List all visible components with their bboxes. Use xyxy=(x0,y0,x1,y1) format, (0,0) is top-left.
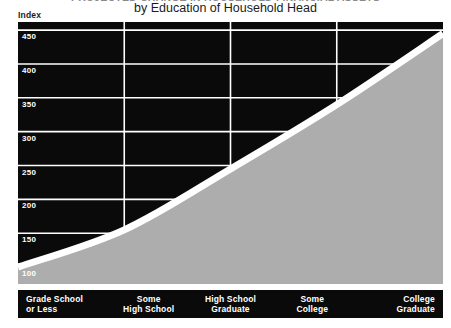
chart-subtitle: by Education of Household Head xyxy=(0,1,451,15)
category-label-line: Some xyxy=(271,294,353,304)
category-label-line: College xyxy=(353,294,435,304)
x-axis-category-label: High SchoolGraduate xyxy=(190,294,272,314)
chart-root: PROJECTED CHANGE IN HOUSEHOLD FINANCIAL … xyxy=(0,0,451,328)
category-label-line: Graduate xyxy=(190,304,272,314)
category-label-line: Some xyxy=(108,294,190,304)
category-label-line: College xyxy=(271,304,353,314)
category-label-line: High School xyxy=(108,304,190,314)
x-axis-category-label: CollegeGraduate xyxy=(353,294,443,314)
x-axis-category-label: Grade Schoolor Less xyxy=(18,294,108,314)
x-axis-category-label: SomeHigh School xyxy=(108,294,190,314)
plot-area xyxy=(18,22,443,284)
x-axis-category-label: SomeCollege xyxy=(271,294,353,314)
category-label-line: Grade School xyxy=(26,294,108,304)
area-chart-svg xyxy=(18,22,443,284)
category-label-line: Graduate xyxy=(353,304,435,314)
y-axis-caption: Index xyxy=(18,10,41,20)
category-label-line: High School xyxy=(190,294,272,304)
category-label-line: or Less xyxy=(26,304,108,314)
x-axis-category-band: Grade Schoolor LessSomeHigh SchoolHigh S… xyxy=(18,290,443,318)
